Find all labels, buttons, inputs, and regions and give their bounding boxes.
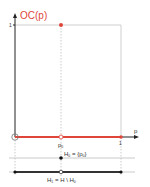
h1-label: H1 = H \ H0	[47, 177, 76, 184]
h1-left-end	[13, 170, 16, 173]
y-axis-arrow-icon	[13, 13, 17, 18]
p0-label: p0	[58, 142, 63, 149]
oc-point-p0-filled	[59, 23, 63, 27]
h1-excluded-p0	[59, 170, 63, 174]
x-axis-arrow-icon	[134, 135, 139, 139]
h1-right-end	[119, 170, 122, 173]
x-axis-label: p	[134, 128, 138, 134]
y-axis-label: OC(p)	[20, 10, 47, 21]
x-one-label: 1	[119, 140, 122, 146]
h0-point	[59, 156, 63, 160]
oc-open-point-p0	[59, 135, 63, 139]
h0-label: H0 = {p0}	[64, 151, 86, 158]
oc-curve-chart: OC(p) 1 p 1 p0 H0 = {p0} H1 = H \ H0	[0, 0, 150, 187]
oc-end-point	[119, 135, 123, 139]
y-one-label: 1	[9, 22, 12, 28]
